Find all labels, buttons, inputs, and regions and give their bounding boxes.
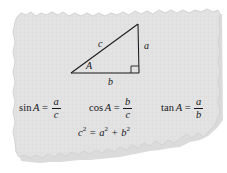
label-hypotenuse-c: c: [98, 38, 102, 49]
sine-function-name: sin: [19, 103, 32, 114]
formula-pythagorean-theorem: c2 = a2 + b2: [78, 126, 130, 138]
tangent-fraction: a b: [194, 97, 203, 120]
tangent-denominator: b: [195, 109, 202, 120]
pythagorean-b-exponent: 2: [127, 125, 131, 133]
formula-tangent: tan A = a b: [161, 97, 203, 120]
pythagorean-c-exponent: 2: [83, 125, 87, 133]
pythagorean-a-exponent: 2: [105, 125, 109, 133]
formula-sine: sin A = a c: [19, 97, 61, 120]
sine-argument: A: [33, 103, 40, 114]
paper-sheet: [0, 0, 227, 173]
paper-body: [0, 0, 227, 173]
formula-cosine: cos A = b c: [89, 97, 132, 120]
label-opposite-a: a: [144, 40, 149, 51]
cosine-fraction: b c: [123, 97, 132, 120]
label-adjacent-b: b: [108, 76, 113, 87]
tangent-numerator: a: [195, 97, 202, 108]
cosine-numerator: b: [124, 97, 131, 108]
pythagorean-plus: +: [112, 127, 118, 138]
cosine-equals: =: [114, 103, 120, 114]
tangent-argument: A: [176, 103, 183, 114]
cosine-function-name: cos: [89, 103, 103, 114]
sine-fraction: a c: [52, 97, 61, 120]
sine-denominator: c: [53, 109, 60, 120]
pythagorean-equals: =: [90, 127, 96, 138]
tangent-function-name: tan: [161, 103, 174, 114]
tangent-equals: =: [185, 103, 191, 114]
cosine-denominator: c: [124, 109, 131, 120]
sine-equals: =: [42, 103, 48, 114]
cosine-argument: A: [105, 103, 112, 114]
label-angle-a: A: [86, 60, 92, 71]
torn-paper-figure: c a b A sin A = a c cos A = b c: [0, 0, 227, 173]
sine-numerator: a: [52, 97, 59, 108]
